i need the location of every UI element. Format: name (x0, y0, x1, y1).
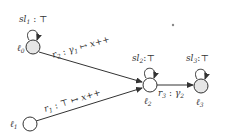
node-l0: ℓ0 sl1 : ⊤ (17, 14, 48, 54)
edge-r1: r1 : ⊤ ↦ x++ (36, 87, 142, 121)
svg-text:ℓ3: ℓ3 (196, 97, 204, 108)
svg-text:ℓ0: ℓ0 (17, 43, 25, 54)
svg-text:r3 : γ2: r3 : γ2 (158, 88, 184, 99)
edge-r3: r3 : γ2 (157, 85, 193, 99)
self-loop-l2 (144, 68, 154, 78)
node-l3: ℓ3 sl3:⊤ (186, 53, 209, 108)
edge-r2: r2 : γ1 ↦ x++ (39, 34, 142, 82)
self-loop-l3 (195, 69, 205, 79)
automaton-diagram: r2 : γ1 ↦ x++ r1 : ⊤ ↦ x++ r3 : γ2 ℓ0 sl… (0, 0, 228, 137)
stray-dot (172, 24, 174, 26)
svg-text:ℓ2: ℓ2 (144, 96, 152, 107)
self-loop-label-l2: sl2:⊤ (132, 53, 155, 64)
svg-text:ℓ1: ℓ1 (10, 119, 18, 130)
svg-text:r2 : γ1 ↦ x++: r2 : γ1 ↦ x++ (51, 34, 111, 61)
self-loop-l0 (27, 30, 37, 40)
node-l1: ℓ1 (10, 117, 37, 131)
self-loop-label-l3: sl3:⊤ (186, 53, 209, 64)
svg-text:r1 : ⊤ ↦ x++: r1 : ⊤ ↦ x++ (43, 87, 102, 115)
self-loop-label-l0: sl1 : ⊤ (19, 14, 48, 25)
